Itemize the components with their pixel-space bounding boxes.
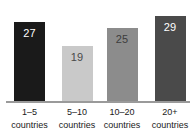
bar-chart: 27 19 25 29 1–5 countries 5–10 countries… xyxy=(0,0,196,139)
x-tick-label-line2: countries xyxy=(96,119,148,132)
x-tick-label-20-plus-countries: 20+ countries xyxy=(144,106,196,132)
x-tick-label-10-20-countries: 10–20 countries xyxy=(96,106,148,132)
bar-10-20-countries[interactable]: 25 xyxy=(107,28,138,101)
x-axis-tick-labels: 1–5 countries 5–10 countries 10–20 count… xyxy=(0,106,196,139)
bar-value-label: 27 xyxy=(14,27,45,39)
bar-20-plus-countries[interactable]: 29 xyxy=(155,16,186,101)
x-tick-label-line2: countries xyxy=(4,119,56,132)
x-axis-line xyxy=(6,101,190,103)
x-tick-label-line1: 1–5 xyxy=(4,106,56,119)
bar-value-label: 25 xyxy=(107,33,138,45)
x-tick-label-line1: 20+ xyxy=(144,106,196,119)
x-tick-label-1-5-countries: 1–5 countries xyxy=(4,106,56,132)
bar-1-5-countries[interactable]: 27 xyxy=(14,22,45,101)
x-tick-label-line2: countries xyxy=(144,119,196,132)
bar-5-10-countries[interactable]: 19 xyxy=(62,46,93,101)
plot-area: 27 19 25 29 xyxy=(0,0,196,102)
bar-value-label: 19 xyxy=(62,51,93,63)
x-tick-label-line1: 10–20 xyxy=(96,106,148,119)
bar-value-label: 29 xyxy=(155,21,186,33)
